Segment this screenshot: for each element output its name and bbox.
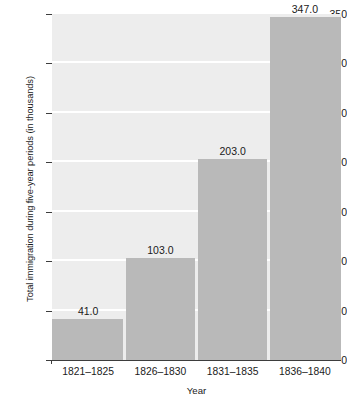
bar-slot bbox=[270, 14, 341, 360]
bar-slot bbox=[198, 14, 267, 360]
x-axis-line bbox=[46, 360, 341, 361]
bar-slot bbox=[126, 14, 195, 360]
y-axis-title-text: Total immigration during five-year perio… bbox=[25, 76, 35, 302]
bar[interactable] bbox=[198, 159, 267, 360]
bar[interactable] bbox=[52, 319, 123, 360]
bar-value-label: 41.0 bbox=[52, 306, 124, 317]
x-axis-origin-tick bbox=[51, 360, 52, 364]
bar[interactable] bbox=[126, 258, 195, 360]
bar-value-label: 203.0 bbox=[197, 146, 269, 157]
x-axis-category-label: 1836–1840 bbox=[269, 366, 341, 377]
bar-value-label: 347.0 bbox=[269, 4, 341, 15]
bar-value-label: 103.0 bbox=[124, 245, 196, 256]
y-axis-title: Total immigration during five-year perio… bbox=[20, 16, 40, 362]
bar-chart: Total immigration during five-year perio… bbox=[0, 0, 347, 408]
x-axis-category-label: 1826–1830 bbox=[124, 366, 196, 377]
bar[interactable] bbox=[270, 17, 341, 360]
x-axis-category-label: 1821–1825 bbox=[52, 366, 124, 377]
x-axis-title: Year bbox=[52, 386, 341, 396]
x-axis-category-label: 1831–1835 bbox=[197, 366, 269, 377]
